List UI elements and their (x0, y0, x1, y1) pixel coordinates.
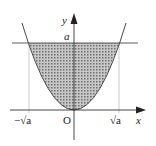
origin-label: O (63, 114, 71, 126)
y-axis-label: y (61, 14, 67, 26)
x-axis-arrow-icon (136, 107, 146, 114)
neg-root-label: −√a (14, 114, 31, 126)
x-axis-label: x (135, 114, 141, 126)
parabola-diagram: y a O x −√a √a (0, 0, 156, 146)
pos-root-label: √a (110, 114, 121, 126)
level-label: a (64, 30, 70, 42)
y-axis-arrow-icon (71, 13, 78, 24)
